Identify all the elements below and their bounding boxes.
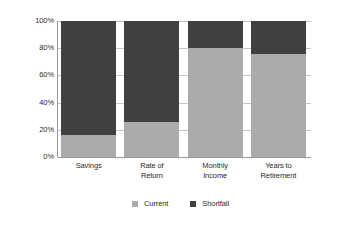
- bar-segment-current[interactable]: [124, 122, 179, 157]
- bar-segment-shortfall[interactable]: [188, 21, 243, 48]
- bars-layer: [57, 21, 310, 157]
- legend-swatch-icon: [132, 201, 138, 207]
- legend-label: Shortfall: [202, 199, 229, 208]
- y-axis-tick-label: 40%: [8, 99, 54, 107]
- legend-swatch-icon: [190, 201, 196, 207]
- y-axis-tick-label: 20%: [8, 126, 54, 134]
- legend-label: Current: [144, 199, 168, 208]
- x-axis-label-line: Savings: [57, 161, 120, 171]
- x-axis-label-line: Rate of: [120, 161, 183, 171]
- x-axis-labels: SavingsRate ofReturnMonthlyIncomeYears t…: [57, 161, 310, 191]
- y-axis-tick-label: 100%: [8, 17, 54, 25]
- stacked-bar-chart: 100%80%60%40%20%0% SavingsRate ofReturnM…: [0, 0, 361, 233]
- chart-legend: CurrentShortfall: [0, 199, 361, 208]
- x-axis-category-label: Savings: [57, 161, 120, 171]
- bar-segment-shortfall[interactable]: [124, 21, 179, 122]
- bar-group[interactable]: [251, 21, 306, 157]
- x-axis-label-line: Retirement: [247, 171, 310, 181]
- legend-item-shortfall[interactable]: Shortfall: [190, 199, 229, 208]
- x-axis-category-label: MonthlyIncome: [184, 161, 247, 180]
- bar-segment-current[interactable]: [61, 135, 116, 157]
- bar-group[interactable]: [188, 21, 243, 157]
- bar-segment-current[interactable]: [251, 54, 306, 157]
- bar-segment-current[interactable]: [188, 48, 243, 157]
- y-axis-tick-label: 0%: [8, 153, 54, 161]
- legend-item-current[interactable]: Current: [132, 199, 168, 208]
- gridline-0%: [58, 157, 311, 158]
- bar-group[interactable]: [61, 21, 116, 157]
- y-axis-tick-label: 60%: [8, 71, 54, 79]
- x-axis-category-label: Rate ofReturn: [120, 161, 183, 180]
- bar-segment-shortfall[interactable]: [251, 21, 306, 54]
- x-axis-label-line: Monthly: [184, 161, 247, 171]
- y-axis-tick-label: 80%: [8, 44, 54, 52]
- x-axis-label-line: Income: [184, 171, 247, 181]
- x-axis-category-label: Years toRetirement: [247, 161, 310, 180]
- bar-segment-shortfall[interactable]: [61, 21, 116, 135]
- x-axis-label-line: Return: [120, 171, 183, 181]
- x-axis-label-line: Years to: [247, 161, 310, 171]
- bar-group[interactable]: [124, 21, 179, 157]
